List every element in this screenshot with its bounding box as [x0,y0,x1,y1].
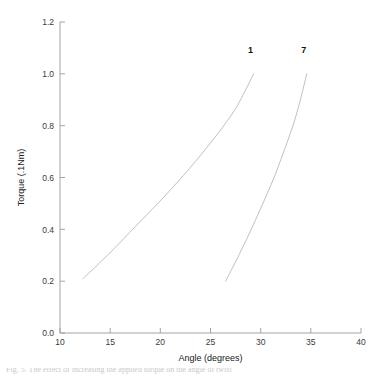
y-axis-tick-labels: 0.0 0.2 0.4 0.6 0.8 1.0 1.2 [42,17,54,338]
y-tick-label: 1.2 [42,17,54,27]
chart-figure: 0.0 0.2 0.4 0.6 0.8 1.0 1.2 10 15 20 25 … [0,0,386,379]
figure-caption-partial: Fig. 5. The effect of increasing the app… [6,368,232,374]
torque-angle-line-chart: 0.0 0.2 0.4 0.6 0.8 1.0 1.2 10 15 20 25 … [0,0,386,379]
y-tick-label: 0.8 [42,121,54,131]
x-axis-tick-labels: 10 15 20 25 30 35 40 [55,337,366,347]
x-tick-label: 20 [156,337,166,347]
x-tick-label: 30 [256,337,266,347]
series-label-1: 1 [248,45,253,55]
x-tick-label: 40 [356,337,366,347]
caption-strip: Fig. 5. The effect of increasing the app… [0,368,386,379]
series-label-7: 7 [301,45,306,55]
x-tick-label: 10 [55,337,65,347]
x-axis-title: Angle (degrees) [178,353,242,363]
axis-lines [60,22,361,333]
y-tick-label: 0.2 [42,276,54,286]
y-tick-label: 0.4 [42,225,54,235]
x-tick-marks [60,328,361,333]
y-tick-label: 0.6 [42,173,54,183]
x-tick-label: 35 [306,337,316,347]
series-curve-1 [83,74,254,279]
y-axis-title: Torque (.1Nm) [16,149,26,207]
y-tick-label: 0.0 [42,328,54,338]
y-tick-marks [60,22,65,333]
x-tick-label: 15 [105,337,115,347]
y-tick-label: 1.0 [42,69,54,79]
x-tick-label: 25 [206,337,216,347]
